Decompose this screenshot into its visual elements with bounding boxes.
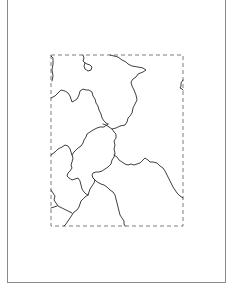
boundary-east-region (114, 155, 183, 198)
map-canvas[interactable] (0, 0, 229, 287)
map-extent-box (51, 55, 183, 226)
boundary-lines (51, 55, 183, 226)
boundary-northwest-region (51, 89, 108, 124)
boundary-central-region-east (88, 129, 116, 195)
boundary-south-central (93, 178, 125, 226)
boundary-northeast-region (103, 55, 146, 129)
boundary-southwest-a (51, 190, 72, 213)
boundary-lake (83, 55, 92, 71)
boundary-southwest-c (51, 206, 57, 208)
boundary-west-region (51, 145, 72, 155)
